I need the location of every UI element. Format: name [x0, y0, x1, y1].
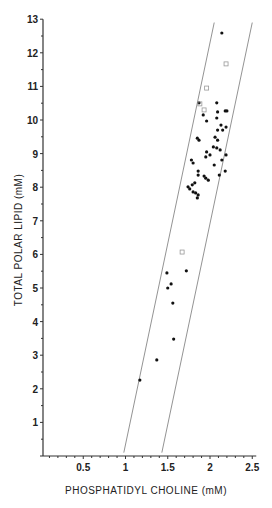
filled-circle-point	[208, 153, 211, 156]
filled-circle-point	[205, 150, 208, 153]
filled-circle-point	[213, 136, 216, 139]
data-points	[138, 31, 228, 381]
filled-circle-point	[205, 119, 208, 122]
lower-bound-line	[124, 23, 214, 453]
y-tick-label: 12	[27, 48, 39, 59]
filled-circle-point	[192, 161, 195, 164]
x-axis-title: PHOSPHATIDYL CHOLINE (mM)	[65, 485, 227, 496]
filled-circle-point	[224, 169, 227, 172]
filled-circle-point	[188, 187, 191, 190]
filled-circle-point	[171, 302, 174, 305]
filled-circle-point	[204, 177, 207, 180]
filled-circle-point	[202, 113, 205, 116]
y-tick-label: 10	[27, 115, 39, 126]
filled-circle-point	[197, 139, 200, 142]
reference-lines	[124, 23, 252, 453]
upper-bound-line	[162, 23, 252, 453]
filled-circle-point	[191, 183, 194, 186]
filled-circle-point	[166, 286, 169, 289]
y-ticks: 12345678910111213	[27, 14, 43, 456]
filled-circle-point	[197, 193, 200, 196]
y-axis-title: TOTAL POLAR LIPID (mM)	[13, 174, 24, 307]
y-tick-label: 3	[32, 350, 38, 361]
filled-circle-point	[197, 174, 200, 177]
y-tick-label: 11	[27, 81, 38, 92]
filled-circle-point	[218, 174, 221, 177]
x-tick-label: 1.5	[161, 462, 175, 473]
y-tick-label: 7	[32, 216, 38, 227]
x-tick-label: 2	[207, 462, 213, 473]
y-tick-label: 2	[32, 384, 38, 395]
filled-circle-point	[207, 179, 210, 182]
x-tick-label: 0.5	[76, 462, 90, 473]
filled-circle-point	[138, 378, 141, 381]
open-square-point	[202, 108, 206, 112]
filled-circle-point	[212, 145, 215, 148]
filled-circle-point	[165, 271, 168, 274]
filled-circle-point	[220, 31, 223, 34]
filled-circle-point	[190, 158, 193, 161]
y-tick-label: 5	[32, 283, 38, 294]
y-tick-label: 6	[32, 249, 38, 260]
filled-circle-point	[170, 282, 173, 285]
filled-circle-point	[225, 109, 228, 112]
filled-circle-point	[194, 191, 197, 194]
filled-circle-point	[215, 146, 218, 149]
y-tick-label: 4	[32, 317, 38, 328]
filled-circle-point	[216, 139, 219, 142]
filled-circle-point	[196, 196, 199, 199]
x-tick-label: 1	[123, 462, 129, 473]
filled-circle-point	[193, 181, 196, 184]
filled-circle-point	[221, 128, 224, 131]
filled-circle-point	[155, 358, 158, 361]
open-square-point	[205, 86, 209, 90]
filled-circle-point	[216, 128, 219, 131]
filled-circle-point	[219, 123, 222, 126]
axes	[43, 19, 256, 456]
x-tick-label: 2.5	[245, 462, 259, 473]
x-ticks: 0.511.522.5	[49, 456, 259, 473]
scatter-chart: 12345678910111213 0.511.522.5 PHOSPHATID…	[0, 0, 272, 508]
filled-circle-point	[172, 337, 175, 340]
filled-circle-point	[224, 153, 227, 156]
filled-circle-point	[204, 155, 207, 158]
filled-circle-point	[215, 101, 218, 104]
filled-circle-point	[224, 125, 227, 128]
filled-circle-point	[197, 169, 200, 172]
filled-circle-point	[185, 269, 188, 272]
filled-circle-point	[213, 163, 216, 166]
open-square-point	[180, 250, 184, 254]
y-tick-label: 9	[32, 149, 38, 160]
filled-circle-point	[216, 110, 219, 113]
filled-circle-point	[219, 148, 222, 151]
y-tick-label: 1	[32, 417, 38, 428]
filled-circle-point	[215, 116, 218, 119]
y-tick-label: 8	[32, 182, 38, 193]
y-tick-label: 13	[27, 14, 39, 25]
filled-circle-point	[220, 158, 223, 161]
open-square-point	[224, 62, 228, 66]
